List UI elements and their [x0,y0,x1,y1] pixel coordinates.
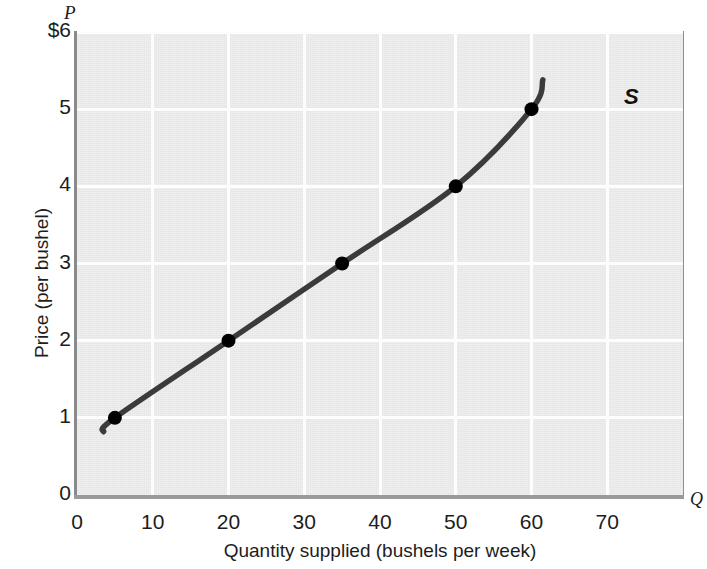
x-tick-label: 20 [199,510,259,534]
x-tick-label: 30 [274,510,334,534]
data-point-marker [525,102,539,116]
data-point-marker [335,257,349,271]
plot-area: S [77,32,683,495]
x-tick-label: 70 [577,510,637,534]
supply-curve-plot [77,32,683,495]
x-axis-line [74,495,684,499]
x-tick-label: 60 [502,510,562,534]
supply-curve-label: S [624,84,639,110]
y-tick-label: 1 [15,404,71,428]
data-point-marker [108,411,122,425]
y-tick-label: 0 [15,481,71,505]
x-axis-title: Quantity supplied (bushels per week) [77,540,683,562]
data-point-marker [222,334,236,348]
x-tick-label: 0 [47,510,107,534]
y-tick-label: 5 [15,95,71,119]
supply-curve-figure: P Q S 012345$6 010203040506070 Price (pe… [0,0,707,569]
supply-curve-line [102,80,543,432]
y-axis-title: Price (per bushel) [31,163,53,403]
y-tick-label: $6 [15,18,71,42]
x-tick-label: 40 [350,510,410,534]
quantity-axis-symbol: Q [690,489,704,510]
x-tick-label: 50 [426,510,486,534]
x-tick-label: 10 [123,510,183,534]
data-point-marker [449,179,463,193]
